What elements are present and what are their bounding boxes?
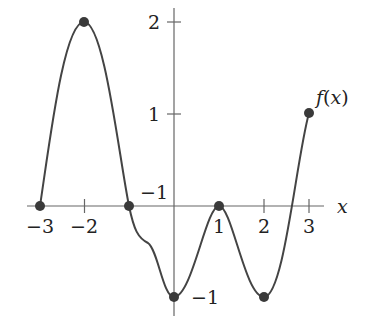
x-axis-label: x (337, 195, 348, 217)
point (169, 292, 179, 302)
x-tick-label--1: −1 (140, 181, 168, 203)
x-tick-label--3: −3 (26, 215, 54, 237)
point (35, 201, 45, 211)
y-tick-label-2: 2 (148, 11, 160, 33)
point (79, 17, 89, 27)
function-plot: −3 −2 −1 1 2 3 2 1 −1 x f(x) (0, 0, 378, 332)
x-tick-label-2: 2 (258, 215, 270, 237)
point (304, 108, 314, 118)
point (214, 201, 224, 211)
x-tick-label-1: 1 (213, 215, 225, 237)
point (124, 201, 134, 211)
point (259, 292, 269, 302)
y-tick-label-1: 1 (148, 103, 160, 125)
series-label: f(x) (314, 86, 349, 108)
y-tick-label--1: −1 (191, 286, 219, 308)
x-tick-label-3: 3 (303, 215, 315, 237)
x-tick-label--2: −2 (70, 215, 98, 237)
